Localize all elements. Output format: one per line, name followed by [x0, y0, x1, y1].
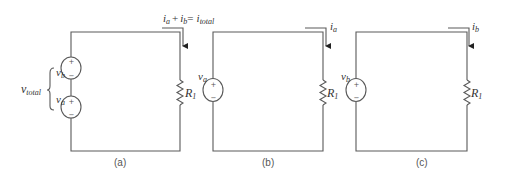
resistor-label-r1: R1 [326, 86, 338, 101]
circuit-c-wire-loop [356, 32, 467, 151]
brace-icon [47, 68, 54, 110]
current-label-ib: ib [472, 20, 479, 34]
svg-text:+: + [69, 98, 75, 106]
circuit-a-wire-loop [71, 32, 180, 151]
source-label-vb: vb [341, 70, 350, 84]
resistor-label-r1: R1 [184, 86, 196, 101]
svg-text:+: + [69, 58, 75, 66]
current-arrow-icon [448, 28, 469, 46]
circuit-b: + − va R1 ia (b) [198, 20, 338, 168]
resistor-r1-icon [464, 80, 470, 105]
vtotal-label: vtotal [21, 82, 42, 97]
caption-c: (c) [416, 157, 428, 168]
caption-b: (b) [262, 157, 274, 168]
svg-text:−: − [69, 72, 75, 80]
caption-a: (a) [114, 157, 126, 168]
svg-text:+: + [354, 81, 360, 89]
circuit-a: + − vb + − va vtotal R1 ia+ib=itotal (a) [21, 12, 215, 168]
resistor-r1-icon [177, 80, 183, 105]
source-label-va: va [198, 70, 207, 84]
circuit-b-wire-loop [213, 32, 323, 151]
source-label-va: va [56, 93, 65, 107]
circuit-c: + − vb R1 ib (c) [341, 20, 482, 168]
superposition-circuit-figure: + − vb + − va vtotal R1 ia+ib=itotal (a)… [0, 0, 505, 179]
svg-text:−: − [69, 111, 75, 119]
svg-text:+: + [211, 81, 217, 89]
resistor-label-r1: R1 [470, 86, 482, 101]
current-label-ia: ia [330, 20, 337, 34]
svg-text:−: − [211, 94, 217, 102]
svg-text:−: − [354, 94, 360, 102]
current-sum-label: ia+ib=itotal [163, 12, 215, 26]
resistor-r1-icon [320, 80, 326, 105]
